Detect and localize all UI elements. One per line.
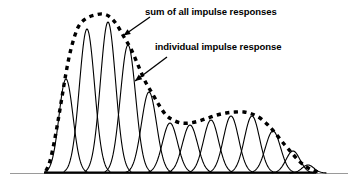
impulse-response-plot — [0, 0, 352, 192]
annotation-label-individual-impulse-response: individual impulse response — [155, 42, 281, 52]
sum-envelope-curve — [46, 14, 318, 172]
impulse-curve — [45, 79, 87, 172]
impulse-curve — [188, 120, 234, 172]
impulse-curve — [85, 22, 131, 171]
impulse-response-figure: sum of all impulse responses individual … — [0, 0, 352, 192]
impulse-curve — [208, 116, 254, 172]
arrow-head — [124, 29, 131, 35]
annotation-label-sum-of-all-impulse-responses: sum of all impulse responses — [145, 7, 277, 17]
